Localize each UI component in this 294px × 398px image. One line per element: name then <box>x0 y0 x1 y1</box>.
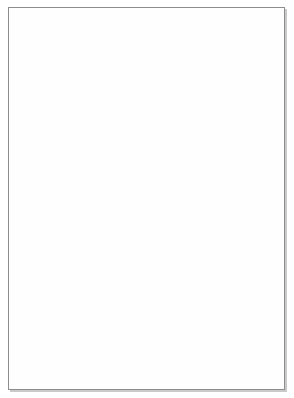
hox-label-line1: Hox- <box>208 86 228 97</box>
hox-label-a2b2-col2[interactable]: Hox- A2 B2 <box>202 114 235 139</box>
hox-label-a2b2-col1[interactable]: Hox- A2 B2 <box>150 114 183 139</box>
hox-label-line2: A2 B2 <box>255 127 281 138</box>
hox-label-a2b2-col3[interactable]: Hox- A2 B2 <box>252 114 285 139</box>
hox-label-line2: A3 B3 <box>205 97 231 108</box>
gene-band-label: Msx <box>51 63 71 75</box>
gene-band-otx2[interactable]: Otx2 <box>44 30 110 56</box>
gene-band-dlx[interactable]: Dlx <box>44 82 110 108</box>
hox-label-line2: B1 <box>161 25 173 36</box>
hox-label-line2: A3 B3 <box>255 97 281 108</box>
gene-band-label: Dlx <box>51 89 66 101</box>
hox-label-line2: A2 B2 <box>205 127 231 138</box>
hox-label-line1: Hox- <box>258 86 278 97</box>
hox-label-a4b4-col3[interactable]: Hox- A4 B4 <box>252 56 285 81</box>
hox-label-line2: A4 B4 <box>255 69 281 80</box>
hox-label-line1: Hox- <box>258 58 278 69</box>
hox-label-a3b3-col2[interactable]: Hox- A3 B3 <box>202 84 235 109</box>
gene-band-msx[interactable]: Msx <box>44 56 110 82</box>
gene-band-label: Barx <box>51 115 73 127</box>
hox-label-line1: Hox- <box>156 116 176 127</box>
hox-label-line1: Hox- <box>208 116 228 127</box>
hox-label-b1[interactable]: Hox- B1 <box>150 12 183 37</box>
figure-root: Otx2 Msx Dlx Barx Hox- B1 Hox- A2 B2 Hox… <box>0 0 294 398</box>
hox-label-line2: A2 B2 <box>153 127 179 138</box>
hox-label-a3b3-col3[interactable]: Hox- A3 B3 <box>252 84 285 109</box>
hox-label-line1: Hox- <box>258 116 278 127</box>
anterior-gene-band-stack: Otx2 Msx Dlx Barx <box>44 30 110 134</box>
gene-band-label: Otx2 <box>51 37 74 49</box>
hox-label-line1: Hox- <box>156 14 176 25</box>
gene-band-barx[interactable]: Barx <box>44 108 110 134</box>
